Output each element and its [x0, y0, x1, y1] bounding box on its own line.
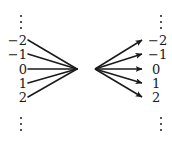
right-fan-arrow-two — [95, 69, 142, 97]
right-label-one: 1 — [152, 77, 172, 90]
left-fan-line-minus1 — [28, 54, 77, 69]
left-label-zero: 0 — [5, 63, 27, 76]
ellipsis-dot — [160, 15, 162, 17]
right-label-two: 2 — [152, 91, 172, 104]
right-fan-arrow-minus2 — [95, 40, 142, 69]
left-fan-lines — [28, 40, 77, 97]
ellipsis-dot — [160, 123, 162, 125]
left-label-two: 2 — [5, 91, 27, 104]
right-fan-arrow-minus1 — [95, 54, 142, 69]
ellipsis-dot — [20, 27, 22, 29]
left-label-minus2: −2 — [5, 34, 27, 47]
ellipsis-dot — [20, 123, 22, 125]
integer-mapping-diagram: −2 −1 0 1 2 −2 −1 0 1 2 — [0, 0, 172, 150]
left-fan-line-two — [28, 69, 77, 97]
right-label-minus1: −1 — [148, 48, 170, 61]
left-bottom-ellipsis-icon — [19, 117, 22, 131]
ellipsis-dot — [20, 129, 22, 131]
ellipsis-dot — [160, 117, 162, 119]
ellipsis-dot — [20, 15, 22, 17]
ellipsis-dot — [160, 27, 162, 29]
ellipsis-dot — [20, 21, 22, 23]
left-fan-line-minus2 — [28, 40, 77, 69]
right-label-zero: 0 — [152, 63, 172, 76]
right-fan-arrows — [95, 40, 142, 97]
ellipsis-dot — [20, 117, 22, 119]
left-top-ellipsis-icon — [19, 15, 22, 29]
left-label-one: 1 — [5, 77, 27, 90]
ellipsis-dot — [160, 21, 162, 23]
left-fan-line-one — [28, 69, 77, 83]
right-fan-arrow-one — [95, 69, 142, 83]
right-bottom-ellipsis-icon — [159, 117, 162, 131]
left-label-minus1: −1 — [5, 48, 27, 61]
right-label-minus2: −2 — [148, 34, 170, 47]
right-top-ellipsis-icon — [159, 15, 162, 29]
ellipsis-dot — [160, 129, 162, 131]
